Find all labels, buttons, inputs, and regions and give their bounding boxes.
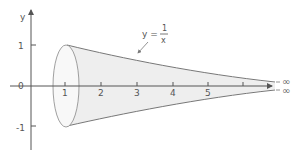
gabriels-horn-diagram: y 1 0 -1 1 2 3 4 5 y = 1 x ∞ ∞ (0, 0, 307, 155)
x-tick-label-3: 3 (134, 88, 140, 98)
x-tick-label-5: 5 (205, 88, 211, 98)
x-tick-label-1: 1 (62, 88, 68, 98)
y-axis-label: y (20, 12, 26, 22)
label-pointer-arrow (138, 42, 148, 53)
infinity-label-lower: ∞ (282, 85, 290, 96)
equation-numerator: 1 (162, 24, 167, 33)
equation-denominator: x (161, 36, 166, 45)
x-tick-label-4: 4 (170, 88, 176, 98)
x-tick-label-2: 2 (98, 88, 104, 98)
y-tick-label-0: 0 (18, 81, 24, 91)
y-tick-label-minus-1: -1 (16, 123, 25, 133)
y-tick-label-1: 1 (18, 41, 24, 51)
equation-lhs: y = (142, 29, 158, 39)
curve-equation-label: y = 1 x (142, 24, 168, 45)
